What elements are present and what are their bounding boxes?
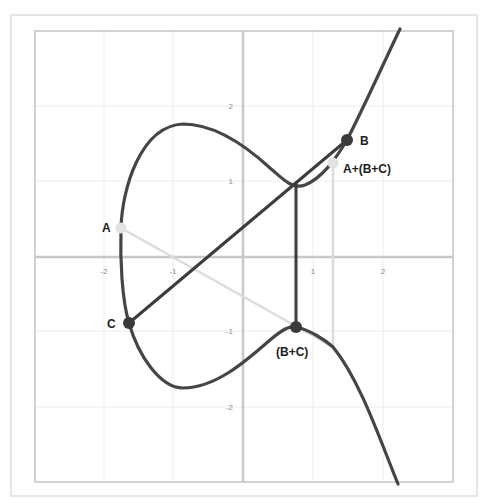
x-tick-label: -2 — [100, 267, 108, 276]
point-a-plus-b-plus-c-label: A+(B+C) — [343, 162, 391, 176]
point-b-plus-c-marker — [290, 321, 302, 333]
elliptic-curve-diagram: -2-11221-1-2 ABC(B+C)A+(B+C) — [0, 0, 488, 503]
point-c-marker — [123, 317, 135, 329]
x-tick-label: 1 — [311, 267, 316, 276]
point-a-plus-b-plus-c-marker — [328, 158, 339, 169]
x-tick-label: -1 — [169, 267, 177, 276]
point-a-label: A — [102, 221, 111, 235]
y-tick-label: -2 — [226, 403, 234, 412]
y-tick-label: 1 — [229, 177, 234, 186]
point-b-plus-c-label: (B+C) — [276, 345, 308, 359]
point-c-label: C — [107, 317, 116, 331]
point-a-marker — [116, 223, 127, 234]
y-tick-label: -1 — [226, 327, 234, 336]
x-tick-label: 2 — [381, 267, 386, 276]
point-b-marker — [341, 134, 353, 146]
y-tick-label: 2 — [229, 102, 234, 111]
point-b-label: B — [360, 134, 369, 148]
